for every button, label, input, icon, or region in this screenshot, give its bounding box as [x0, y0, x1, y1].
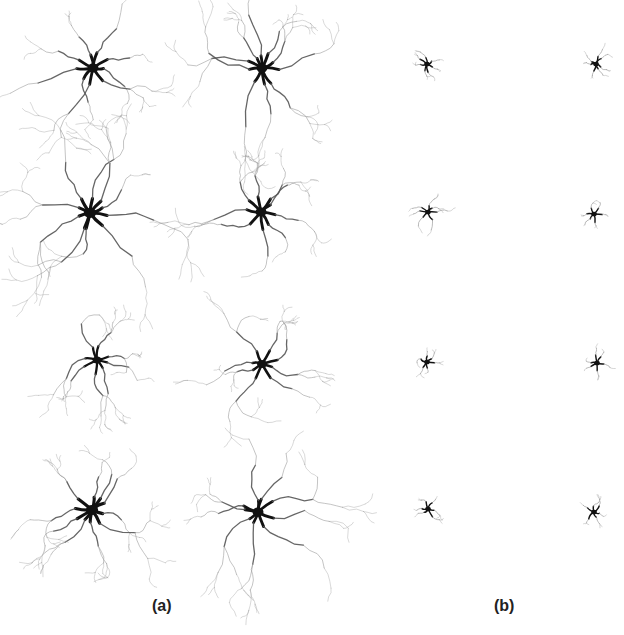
panel-b-cell-8 [0, 0, 624, 635]
panel-a-label: (a) [152, 597, 172, 615]
panel-b-label: (b) [494, 597, 514, 615]
